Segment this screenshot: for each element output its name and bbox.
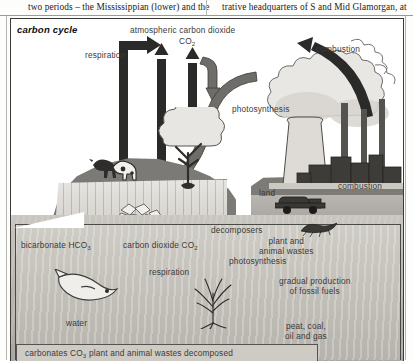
label-photosynthesis-water: photosynthesis bbox=[229, 257, 286, 267]
label-carbon-dioxide-water: carbon dioxide CO2 bbox=[123, 241, 198, 251]
label-combustion-top: combustion bbox=[316, 45, 360, 55]
left-margin-rule bbox=[6, 16, 7, 360]
fish-icon bbox=[53, 269, 121, 307]
worm-decomposer-icon bbox=[297, 219, 341, 237]
label-plant-animal-wastes: plant and animal wastes bbox=[259, 237, 314, 256]
column-text-left: two periods – the Mississippian (lower) … bbox=[28, 2, 210, 12]
label-co2: CO2 bbox=[179, 37, 195, 47]
label-bicarbonate: bicarbonate HCO3 bbox=[21, 241, 91, 251]
column-gutter-rule bbox=[206, 0, 207, 15]
power-station-icon bbox=[269, 79, 404, 199]
label-decomposers: decomposers bbox=[211, 226, 262, 236]
column-text-right: trative headquarters of S and Mid Glamor… bbox=[222, 2, 407, 12]
right-margin-rule bbox=[405, 16, 406, 360]
figure-title: carbon cycle bbox=[17, 24, 77, 35]
aquatic-plant-icon bbox=[191, 277, 237, 329]
label-carbonates: carbonates CO3 bbox=[25, 349, 86, 359]
arrow-co2-up bbox=[186, 47, 200, 115]
label-land: land bbox=[259, 189, 275, 199]
tree-icon bbox=[151, 107, 225, 189]
label-atmospheric-co2: atmospheric carbon dioxide bbox=[130, 26, 235, 36]
label-gradual-production: gradual production of fossil fuels bbox=[279, 277, 350, 296]
label-respiration-land: respiration bbox=[85, 51, 125, 61]
label-photosynthesis-land: photosynthesis bbox=[232, 105, 289, 115]
label-wastes-decomposed: plant and animal wastes decomposed bbox=[89, 349, 233, 359]
label-water: water bbox=[66, 319, 87, 329]
horizontal-rule bbox=[0, 15, 413, 16]
label-peat-coal-oil-gas: peat, coal, oil and gas bbox=[285, 322, 327, 341]
label-combustion-land: combustion bbox=[338, 182, 382, 192]
carbon-cycle-figure: carbon cycle atmospheric carbon dioxide … bbox=[10, 18, 404, 361]
label-respiration-water: respiration bbox=[149, 268, 189, 278]
truck-icon bbox=[275, 191, 331, 215]
cow-icon bbox=[89, 155, 139, 181]
